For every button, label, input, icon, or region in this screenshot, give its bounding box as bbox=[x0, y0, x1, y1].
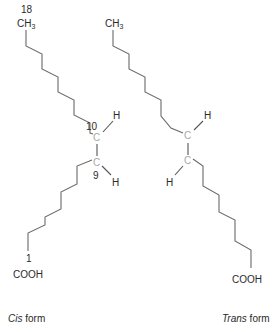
trans-carboxyl-group: COOH bbox=[232, 274, 262, 285]
trans-lower-hydrogen: H bbox=[166, 177, 173, 188]
cis-upper-chain bbox=[26, 30, 93, 134]
trans-lower-h-bond bbox=[175, 166, 183, 175]
cis-carboxyl-group: COOH bbox=[13, 269, 43, 280]
trans-upper-chain bbox=[113, 30, 183, 133]
trans-lower-chain bbox=[193, 159, 251, 268]
cis-carbon-10-number: 10 bbox=[86, 121, 98, 132]
cis-carbon-10: C bbox=[93, 132, 100, 143]
trans-upper-carbon: C bbox=[184, 130, 191, 141]
cis-lower-hydrogen: H bbox=[112, 177, 119, 188]
cis-carbon-1-number: 1 bbox=[26, 253, 32, 264]
cis-caption: Cis form bbox=[8, 313, 45, 324]
fatty-acid-diagram: 18 CH3 C 10 H C 9 H 1 COOH Cis form CH3 … bbox=[0, 0, 278, 332]
trans-upper-hydrogen: H bbox=[204, 110, 211, 121]
trans-structure: CH3 C H C H COOH Trans form bbox=[105, 18, 270, 324]
cis-upper-h-bond bbox=[103, 121, 113, 132]
cis-carbon-18-number: 18 bbox=[21, 4, 33, 15]
trans-methyl-group: CH3 bbox=[105, 18, 123, 30]
cis-carbon-9-number: 9 bbox=[93, 170, 99, 181]
cis-methyl-group: CH3 bbox=[17, 18, 35, 30]
trans-lower-carbon: C bbox=[184, 155, 191, 166]
cis-lower-chain bbox=[28, 160, 92, 251]
cis-structure: 18 CH3 C 10 H C 9 H 1 COOH Cis form bbox=[8, 4, 120, 324]
cis-carbon-9: C bbox=[93, 157, 100, 168]
trans-caption: Trans form bbox=[222, 313, 270, 324]
cis-lower-h-bond bbox=[102, 166, 111, 175]
trans-upper-h-bond bbox=[194, 121, 203, 130]
cis-upper-hydrogen: H bbox=[113, 110, 120, 121]
